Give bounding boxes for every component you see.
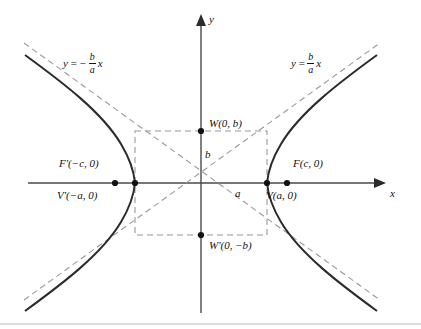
hyperbola-figure: y x F'(−c, 0) V'(−a, 0) F(c, 0) V(a, 0) … <box>0 0 421 329</box>
label-vertex-left: V'(−a, 0) <box>57 190 97 201</box>
asymptote-right-numerator: b <box>307 52 314 63</box>
asymptote-left-equals: = <box>69 58 78 69</box>
asymptote-right-lhs: y <box>290 58 297 69</box>
label-covertex-bottom: W'(0, −b) <box>209 240 252 251</box>
label-vertex-right: V(a, 0) <box>266 190 297 201</box>
asymptote-left-denominator: a <box>89 64 96 75</box>
asymptote-label-left: y = − b a x <box>62 52 104 75</box>
asymptote-left-lhs: y <box>62 58 69 69</box>
point-focus-left <box>112 180 118 186</box>
label-focus-left: F'(−c, 0) <box>59 158 99 169</box>
label-semi-axis-a: a <box>235 188 241 199</box>
point-vertex-right <box>264 180 270 186</box>
asymptote-label-right: y = b a x <box>290 52 322 75</box>
axis-y <box>196 14 206 313</box>
label-semi-axis-b: b <box>205 149 211 160</box>
axis-x <box>28 178 386 188</box>
asymptote-right-equals: = <box>297 58 306 69</box>
label-focus-right: F(c, 0) <box>293 158 323 169</box>
asymptote-right-denominator: a <box>307 64 314 75</box>
point-covertex-top <box>198 128 204 134</box>
asymptote-right-fraction: b a <box>307 52 314 75</box>
label-covertex-top: W(0, b) <box>209 118 242 129</box>
axis-label-y: y <box>209 14 214 25</box>
asymptote-left-numerator: b <box>89 52 96 63</box>
point-focus-right <box>284 180 290 186</box>
point-covertex-bottom <box>198 232 204 238</box>
asymptote-left-sign: − <box>78 58 87 69</box>
asymptote-left-fraction: b a <box>89 52 96 75</box>
asymptote-left-variable: x <box>97 58 104 69</box>
point-vertex-left <box>132 180 138 186</box>
axis-label-x: x <box>390 188 395 199</box>
asymptote-right-variable: x <box>315 58 322 69</box>
